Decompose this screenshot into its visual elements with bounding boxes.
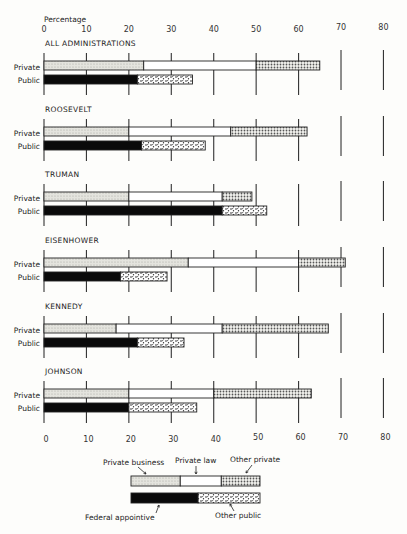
bar-truman-federal-appointive [44, 206, 222, 215]
bar-roosevelt-other-public [142, 141, 206, 150]
arrow-private-business-icon [138, 467, 146, 474]
bar-all-administrations-private-business [44, 61, 144, 70]
bottom-tick-label-80: 80 [380, 433, 390, 442]
chart: Percentage 01020304050607080 01020304050… [0, 0, 407, 534]
group-roosevelt: ROOSEVELTPrivatePublic [14, 105, 384, 161]
bottom-tick-label-70: 70 [338, 433, 348, 442]
row-label-public: Public [18, 404, 40, 413]
top-axis-tick-labels: 01020304050607080 [41, 23, 388, 34]
top-tick-label-10: 10 [81, 25, 91, 34]
row-label-public: Public [18, 273, 40, 282]
legend: Private businessPrivate lawOther private… [85, 455, 281, 522]
bar-groups: ALL ADMINISTRATIONSPrivatePublicROOSEVEL… [14, 39, 384, 423]
row-label-private: Private [14, 391, 41, 400]
bottom-axis-tick-labels: 01020304050607080 [43, 433, 390, 444]
legend-label-private-business: Private business [103, 458, 164, 467]
bottom-tick-label-40: 40 [211, 435, 221, 444]
bar-eisenhower-private-law [188, 258, 298, 267]
top-tick-label-30: 30 [166, 25, 176, 34]
group-title: ALL ADMINISTRATIONS [45, 39, 136, 48]
legend-swatch-federal-appointive [131, 493, 198, 503]
top-tick-label-80: 80 [378, 23, 388, 32]
group-title: ROOSEVELT [45, 105, 92, 114]
legend-label-federal-appointive: Federal appointive [85, 513, 155, 522]
bar-all-administrations-private-law [144, 61, 256, 70]
bottom-tick-label-50: 50 [253, 433, 263, 442]
bar-johnson-private-law [129, 389, 214, 398]
bottom-tick-label-0: 0 [43, 435, 48, 444]
top-tick-label-40: 40 [209, 25, 219, 34]
bar-eisenhower-other-public [120, 272, 167, 281]
bar-kennedy-federal-appointive [44, 338, 137, 347]
top-tick-label-70: 70 [336, 23, 346, 32]
bar-truman-other-public [222, 206, 267, 215]
x-axis-title: Percentage [44, 15, 87, 24]
group-eisenhower: EISENHOWERPrivatePublic [14, 236, 384, 292]
bar-johnson-federal-appointive [44, 403, 129, 412]
bar-all-administrations-other-public [137, 75, 192, 84]
group-title: JOHNSON [44, 367, 83, 376]
bar-truman-other-private [222, 192, 252, 201]
group-title: EISENHOWER [45, 236, 99, 245]
bar-kennedy-other-public [137, 338, 184, 347]
bottom-tick-label-30: 30 [168, 435, 178, 444]
bar-johnson-private-business [44, 389, 129, 398]
group-all-administrations: ALL ADMINISTRATIONSPrivatePublic [14, 39, 384, 95]
bar-eisenhower-other-private [299, 258, 346, 267]
bar-roosevelt-federal-appointive [44, 141, 142, 150]
legend-swatch-private-business [131, 476, 180, 486]
bar-truman-private-law [129, 192, 222, 201]
bar-johnson-other-public [129, 403, 197, 412]
row-label-private: Private [14, 260, 41, 269]
legend-label-other-private: Other private [230, 455, 281, 464]
arrow-other-private-icon [246, 465, 252, 473]
row-label-public: Public [18, 339, 40, 348]
legend-swatch-other-public [198, 493, 260, 503]
group-truman: TRUMANPrivatePublic [14, 170, 384, 226]
legend-swatch-private-law [180, 476, 221, 486]
top-tick-label-60: 60 [293, 25, 303, 34]
top-tick-label-0: 0 [41, 25, 46, 34]
top-tick-label-20: 20 [124, 25, 134, 34]
bar-roosevelt-other-private [231, 127, 307, 136]
row-label-private: Private [14, 129, 41, 138]
row-label-private: Private [14, 194, 41, 203]
bar-kennedy-private-law [116, 324, 222, 333]
row-label-public: Public [18, 207, 40, 216]
legend-label-private-law: Private law [175, 456, 216, 465]
row-label-public: Public [18, 76, 40, 85]
legend-swatch-other-private [221, 476, 260, 486]
group-johnson: JOHNSONPrivatePublic [14, 367, 384, 423]
bar-eisenhower-federal-appointive [44, 272, 120, 281]
bar-all-administrations-federal-appointive [44, 75, 137, 84]
bottom-tick-label-20: 20 [126, 435, 136, 444]
top-tick-label-50: 50 [251, 25, 261, 34]
bottom-tick-label-60: 60 [295, 433, 305, 442]
bar-roosevelt-private-law [129, 127, 231, 136]
bar-eisenhower-private-business [44, 258, 188, 267]
row-label-private: Private [14, 326, 41, 335]
group-title: KENNEDY [45, 302, 83, 311]
group-title: TRUMAN [44, 170, 79, 179]
bar-kennedy-private-business [44, 324, 116, 333]
bar-johnson-other-private [214, 389, 312, 398]
bar-truman-private-business [44, 192, 129, 201]
bar-kennedy-other-private [222, 324, 328, 333]
row-label-private: Private [14, 63, 41, 72]
bar-roosevelt-private-business [44, 127, 129, 136]
bar-all-administrations-other-private [256, 61, 320, 70]
row-label-public: Public [18, 142, 40, 151]
legend-label-other-public: Other public [215, 511, 261, 520]
bottom-tick-label-10: 10 [83, 435, 93, 444]
group-kennedy: KENNEDYPrivatePublic [14, 302, 384, 358]
